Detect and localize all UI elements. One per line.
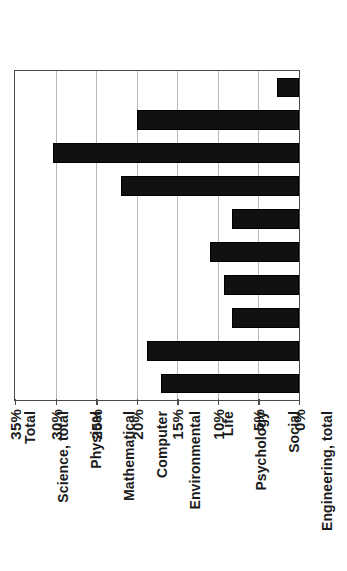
bar-chart-figure: TotalScience, totalPhysicalMathematicalC… xyxy=(0,0,347,571)
y-axis-tick-label: 20% xyxy=(128,409,145,440)
bars xyxy=(15,71,299,400)
bar xyxy=(232,209,299,229)
bar xyxy=(161,374,299,394)
y-axis-tick-label: 30% xyxy=(47,409,64,440)
category-axis-label: Total xyxy=(22,411,38,444)
y-axis-tick-label: 10% xyxy=(209,409,226,440)
category-axis-label: Environmental xyxy=(187,411,203,510)
rotated-figure-wrapper: TotalScience, totalPhysicalMathematicalC… xyxy=(0,0,347,571)
y-axis-tick-label: 35% xyxy=(7,409,24,440)
bar xyxy=(121,176,300,196)
bar xyxy=(137,111,299,131)
y-axis-tick-mark xyxy=(299,399,300,405)
category-axis-label: Computer xyxy=(154,411,170,478)
y-axis-tick-label: 0% xyxy=(291,409,308,431)
bar xyxy=(277,78,299,98)
y-axis-tick-label: 15% xyxy=(169,409,186,440)
y-axis-tick-label: 25% xyxy=(88,409,105,440)
bar xyxy=(210,242,299,262)
bar xyxy=(232,308,299,328)
bar xyxy=(53,143,299,163)
bar xyxy=(147,341,299,361)
plot-area: 0%5%10%15%20%25%30%35% xyxy=(14,70,300,401)
category-axis-label: Engineering, total xyxy=(319,411,335,531)
y-axis-tick-label: 5% xyxy=(250,409,267,431)
bar xyxy=(224,275,299,295)
